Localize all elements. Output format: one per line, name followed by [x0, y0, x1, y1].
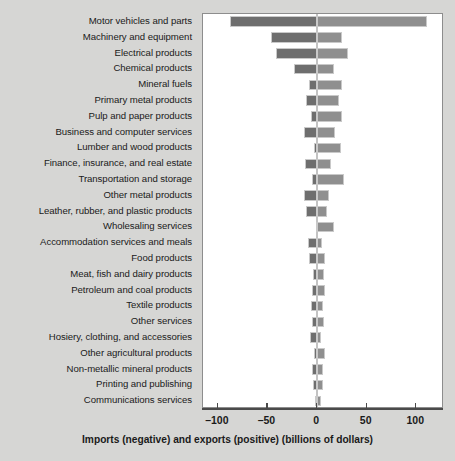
export-bar	[317, 396, 321, 407]
category-label: Other metal products	[103, 187, 192, 203]
bars-container	[203, 14, 442, 407]
x-axis-tick-label: 50	[360, 414, 372, 426]
import-bar	[306, 206, 317, 217]
export-bar	[317, 348, 325, 359]
bar-row	[203, 14, 442, 30]
category-axis-labels: Motor vehicles and partsMachinery and eq…	[0, 13, 197, 408]
export-bar	[317, 16, 427, 27]
category-label: Meat, fish and dairy products	[70, 266, 192, 282]
x-axis-tick	[217, 403, 218, 408]
category-label: Electrical products	[115, 45, 192, 61]
export-bar	[317, 80, 342, 91]
export-bar	[317, 64, 334, 75]
bar-row	[203, 362, 442, 378]
category-label: Other services	[131, 313, 192, 329]
x-axis-line	[202, 408, 443, 410]
export-bar	[317, 143, 341, 154]
export-bar	[317, 190, 329, 201]
x-axis-tick-label: –50	[258, 414, 276, 426]
category-label: Machinery and equipment	[83, 29, 192, 45]
import-bar	[304, 190, 317, 201]
x-axis-tick	[415, 403, 416, 408]
export-bar	[317, 364, 323, 375]
category-label: Lumber and wood products	[77, 139, 192, 155]
export-bar	[317, 380, 323, 391]
export-bar	[317, 48, 348, 59]
bar-row	[203, 346, 442, 362]
x-axis-tick	[266, 403, 267, 408]
bar-row	[203, 251, 442, 267]
category-label: Petroleum and coal products	[71, 282, 192, 298]
import-bar	[230, 16, 317, 27]
export-bar	[317, 111, 342, 122]
bar-row	[203, 377, 442, 393]
x-axis-tick	[316, 403, 317, 408]
export-bar	[317, 285, 325, 296]
export-bar	[317, 332, 321, 343]
bar-row	[203, 125, 442, 141]
x-axis-tick-label: 100	[406, 414, 424, 426]
category-label: Communications services	[84, 392, 192, 408]
export-bar	[317, 95, 339, 106]
import-bar	[305, 159, 317, 170]
x-axis-tick	[366, 403, 367, 408]
category-label: Printing and publishing	[96, 376, 192, 392]
x-axis: –100–50050100	[202, 408, 443, 410]
bar-row	[203, 393, 442, 409]
bar-row	[203, 156, 442, 172]
category-label: Accommodation services and meals	[40, 234, 192, 250]
bar-row	[203, 283, 442, 299]
import-bar	[310, 332, 317, 343]
category-label: Finance, insurance, and real estate	[44, 155, 192, 171]
bar-row	[203, 109, 442, 125]
import-bar	[309, 80, 317, 91]
category-label: Other agricultural products	[80, 345, 192, 361]
category-label: Food products	[131, 250, 192, 266]
export-bar	[317, 253, 325, 264]
bar-row	[203, 61, 442, 77]
import-bar	[294, 64, 317, 75]
bar-row	[203, 298, 442, 314]
category-label: Business and computer services	[55, 124, 192, 140]
bar-row	[203, 235, 442, 251]
category-label: Textile products	[126, 297, 192, 313]
export-bar	[317, 159, 331, 170]
export-bar	[317, 206, 327, 217]
category-label: Hosiery, clothing, and accessories	[49, 329, 192, 345]
import-bar	[309, 253, 317, 264]
category-label: Transportation and storage	[78, 171, 192, 187]
export-bar	[317, 127, 335, 138]
plot-area	[202, 13, 443, 408]
export-bar	[317, 238, 322, 249]
bar-row	[203, 314, 442, 330]
export-bar	[317, 317, 324, 328]
export-bar	[317, 301, 323, 312]
export-bar	[317, 222, 334, 233]
export-bar	[317, 174, 344, 185]
import-bar	[276, 48, 317, 59]
bar-row	[203, 140, 442, 156]
bar-row	[203, 219, 442, 235]
x-axis-tick-label: –100	[205, 414, 228, 426]
x-axis-title: Imports (negative) and exports (positive…	[0, 434, 455, 445]
category-label: Leather, rubber, and plastic products	[39, 203, 192, 219]
bar-row	[203, 77, 442, 93]
category-label: Chemical products	[113, 60, 192, 76]
category-label: Pulp and paper products	[89, 108, 192, 124]
bar-row	[203, 267, 442, 283]
x-axis-tick-label: 0	[313, 414, 319, 426]
bar-row	[203, 30, 442, 46]
category-label: Primary metal products	[94, 92, 192, 108]
category-label: Mineral fuels	[138, 76, 192, 92]
bar-row	[203, 46, 442, 62]
bar-row	[203, 204, 442, 220]
bar-row	[203, 172, 442, 188]
export-bar	[317, 32, 342, 43]
bar-row	[203, 93, 442, 109]
chart-figure: Motor vehicles and partsMachinery and eq…	[0, 0, 455, 461]
bar-row	[203, 330, 442, 346]
category-label: Motor vehicles and parts	[89, 13, 192, 29]
import-bar	[308, 238, 317, 249]
bar-row	[203, 188, 442, 204]
import-bar	[271, 32, 317, 43]
